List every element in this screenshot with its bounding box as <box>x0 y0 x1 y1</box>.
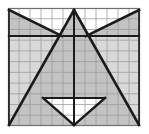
geometry-canvas <box>0 0 149 134</box>
geometry-figure <box>0 0 149 134</box>
